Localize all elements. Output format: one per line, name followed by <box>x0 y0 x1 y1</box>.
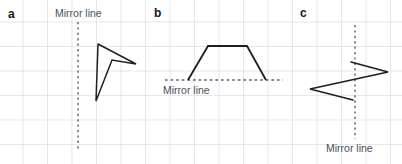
mirror-line-label-b: Mirror line <box>163 85 210 96</box>
reflection-figure <box>0 0 402 164</box>
mirror-line-label-a: Mirror line <box>55 8 102 19</box>
mirror-line-label-c: Mirror line <box>326 143 373 154</box>
panel-b <box>165 46 283 80</box>
panel-a <box>78 22 136 149</box>
panel-letter-b: b <box>154 7 161 19</box>
panel-c <box>310 25 388 139</box>
panel-letter-c: c <box>300 7 307 19</box>
shape-c-zigzag-arrow <box>310 62 388 100</box>
shape-a-concave-dart <box>96 44 136 101</box>
shape-b-trapezium <box>188 46 266 80</box>
panel-letter-a: a <box>8 8 15 20</box>
